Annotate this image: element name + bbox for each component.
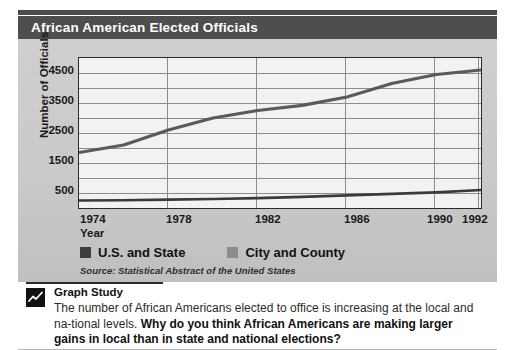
legend-swatch-us-and-state [80,247,91,258]
x-tick-1992: 1992 [462,213,488,225]
y-tick-2500: 2500 [30,124,74,136]
chart-figure-card: African American Elected Officials Numbe… [18,10,497,342]
line-chart-icon [26,288,45,307]
legend-item-city-and-county: City and County [227,245,345,260]
caption-heading: Graph Study [54,286,123,298]
x-tick-1986: 1986 [344,213,370,225]
plot-area [78,57,482,209]
caption-text: The number of African Americans elected … [54,301,484,348]
line-city-and-county [79,70,481,153]
legend-swatch-city-and-county [227,247,238,258]
x-axis-title: Year [80,227,104,239]
series-lines [79,58,481,208]
chart-source: Source: Statistical Abstract of the Unit… [80,265,296,276]
legend-label-city-and-county: City and County [245,245,345,260]
line-us-and-state [79,190,481,201]
caption-block: Graph Study The number of African Americ… [18,282,497,342]
x-tick-1974: 1974 [80,213,106,225]
x-tick-1990: 1990 [427,213,453,225]
chart-title: African American Elected Officials [31,20,258,35]
chart-legend: U.S. and State City and County [80,245,387,260]
legend-item-us-and-state: U.S. and State [80,245,185,260]
top-rule [18,10,497,15]
chart-title-bar: African American Elected Officials [18,16,497,39]
y-tick-4500: 4500 [30,64,74,76]
legend-label-us-and-state: U.S. and State [98,245,185,260]
caption-divider [26,282,163,284]
y-tick-500: 500 [30,184,74,196]
y-axis-ticks: 4500 3500 2500 1500 500 [26,57,74,209]
x-tick-1982: 1982 [255,213,281,225]
chart-panel: Number of Officials 4500 3500 2500 1500 … [18,39,497,282]
x-tick-1978: 1978 [166,213,192,225]
y-tick-3500: 3500 [30,94,74,106]
y-tick-1500: 1500 [30,154,74,166]
